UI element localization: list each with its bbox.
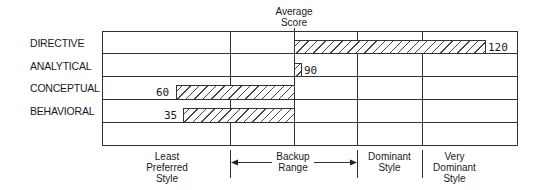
band-line: Style [122,173,212,184]
band-backup-range: Backup Range [268,151,318,173]
band-very-dominant: Very Dominant Style [422,151,487,184]
band-least-preferred: Least Preferred Style [122,151,212,184]
band-line: Range [268,162,318,173]
band-line: Preferred [122,162,212,173]
band-line: Style [357,162,422,173]
band-line: Very [422,151,487,162]
band-line: Least [122,151,212,162]
band-line: Style [422,173,487,184]
band-line: Dominant [422,162,487,173]
band-line: Dominant [357,151,422,162]
band-line: Backup [268,151,318,162]
band-dominant: Dominant Style [357,151,422,173]
